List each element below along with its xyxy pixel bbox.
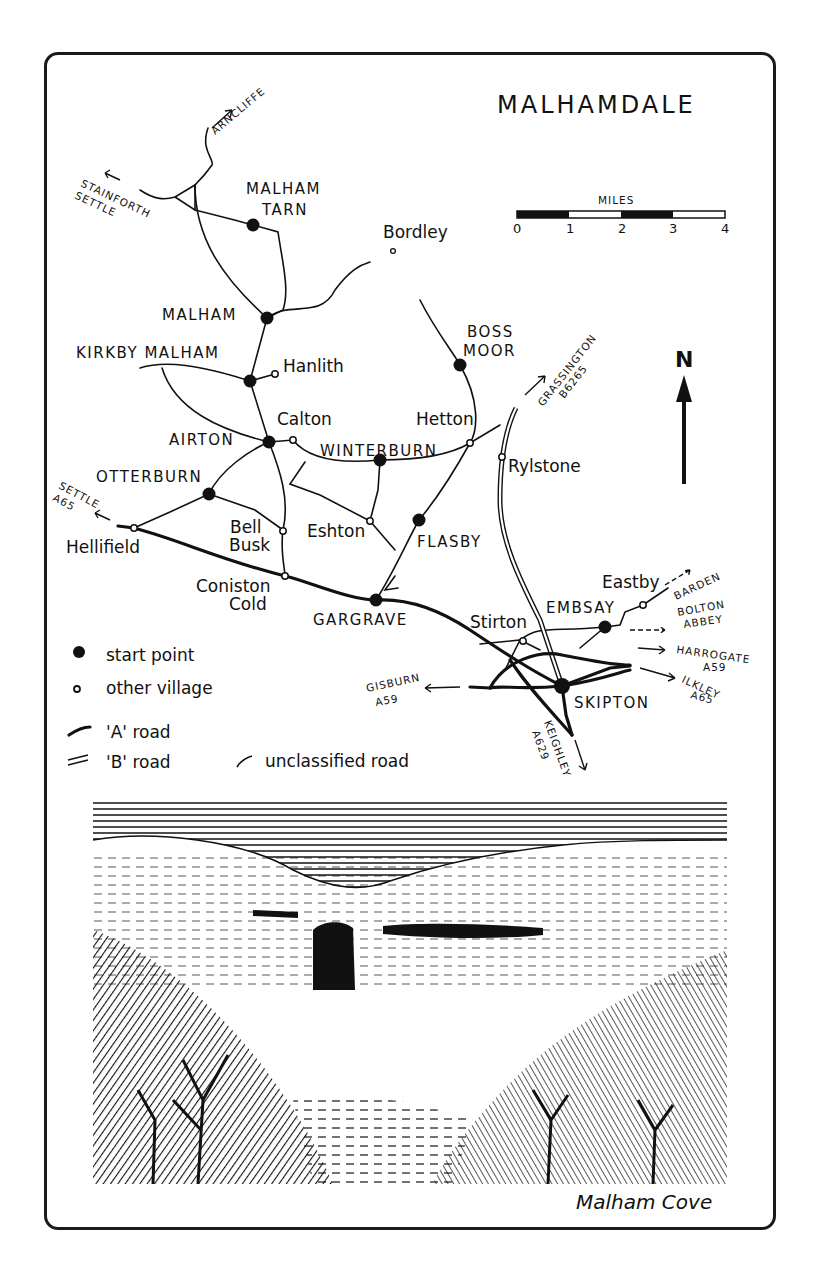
village-bell-busk[interactable] [280,528,286,534]
svg-text:FLASBY: FLASBY [417,533,482,551]
malham-cove-illustration [93,800,727,1184]
scale-bar: MILES 0 1 2 3 4 [513,194,729,236]
map-title: MALHAMDALE [497,91,696,119]
svg-text:Bordley: Bordley [383,222,448,242]
svg-text:TARN: TARN [261,201,308,219]
start-point-malham-tarn[interactable] [247,219,260,232]
svg-text:GISBURN: GISBURN [365,671,421,694]
svg-text:WINTERBURN: WINTERBURN [320,442,437,460]
svg-text:4: 4 [721,221,729,236]
scale-label: MILES [598,194,634,206]
svg-text:KIRKBY MALHAM: KIRKBY MALHAM [76,344,219,362]
village-labels: Bordley Hanlith Calton Hetton Rylstone H… [66,222,660,632]
svg-text:Coniston: Coniston [196,576,270,596]
legend-village-icon [74,686,80,692]
svg-text:N: N [675,347,693,372]
start-point-kirkby-malham[interactable] [244,375,257,388]
direction-labels: ARNCLIFFE STAINFORTH SETTLE GRASSINGTON … [51,85,751,779]
b-road [500,408,562,686]
village-hetton[interactable] [467,440,473,446]
svg-text:Eastby: Eastby [602,572,660,592]
svg-text:SKIPTON: SKIPTON [574,694,650,712]
legend-a-road-icon [69,727,90,735]
svg-text:Hetton: Hetton [416,409,474,429]
start-point-labels: MALHAM TARN MALHAM KIRKBY MALHAM AIRTON … [76,180,650,712]
start-point-embsay[interactable] [599,621,612,634]
svg-text:Rylstone: Rylstone [508,456,581,476]
svg-text:GARGRAVE: GARGRAVE [313,611,408,629]
village-eshton[interactable] [367,518,373,524]
svg-text:1: 1 [566,221,574,236]
legend-start-point-icon [73,646,85,658]
legend-unclassified-road-icon [237,756,252,767]
village-calton[interactable] [290,437,296,443]
svg-text:AIRTON: AIRTON [169,431,234,449]
village-hanlith[interactable] [272,371,278,377]
svg-text:Calton: Calton [277,409,332,429]
svg-text:MOOR: MOOR [463,342,516,360]
svg-text:BOSS: BOSS [467,323,514,341]
svg-text:MALHAM: MALHAM [246,180,321,198]
svg-text:Stirton: Stirton [470,612,527,632]
svg-text:BARDEN: BARDEN [672,570,723,602]
legend-b-road-label: 'B' road [106,752,171,772]
svg-text:Eshton: Eshton [307,521,365,541]
start-point-otterburn[interactable] [203,488,216,501]
start-point-flasby[interactable] [413,514,426,527]
legend: start point other village 'A' road 'B' r… [68,645,409,772]
village-eastby[interactable] [640,602,646,608]
svg-text:2: 2 [618,221,626,236]
start-point-gargrave[interactable] [370,594,383,607]
legend-a-road-label: 'A' road [106,722,171,742]
svg-text:Cold: Cold [229,594,267,614]
start-point-malham[interactable] [261,312,274,325]
legend-unclassified-road-label: unclassified road [265,751,409,771]
start-point-boss-moor[interactable] [454,359,467,372]
svg-text:Hanlith: Hanlith [283,356,344,376]
village-rylstone[interactable] [499,454,505,460]
svg-text:Hellifield: Hellifield [66,537,140,557]
svg-text:MALHAM: MALHAM [162,306,237,324]
svg-text:OTTERBURN: OTTERBURN [96,468,202,486]
village-coniston-cold[interactable] [282,573,288,579]
a-roads [118,526,630,735]
start-point-airton[interactable] [263,436,276,449]
svg-text:ARNCLIFFE: ARNCLIFFE [209,85,268,137]
village-hellifield[interactable] [131,525,137,531]
svg-text:A59: A59 [703,661,727,673]
svg-text:3: 3 [669,221,677,236]
village-stirton[interactable] [520,638,526,644]
north-arrow-icon: N [675,347,693,484]
start-point-skipton[interactable] [554,678,570,694]
legend-b-road-icon [68,755,88,765]
legend-village-label: other village [106,678,213,698]
legend-start-point-label: start point [106,645,195,665]
svg-text:0: 0 [513,221,521,236]
svg-text:Bell: Bell [230,517,262,537]
svg-text:Busk: Busk [229,535,270,555]
illustration-caption: Malham Cove [576,1190,712,1214]
svg-text:A59: A59 [374,692,399,708]
village-bordley[interactable] [391,249,396,254]
svg-text:EMBSAY: EMBSAY [546,599,616,617]
